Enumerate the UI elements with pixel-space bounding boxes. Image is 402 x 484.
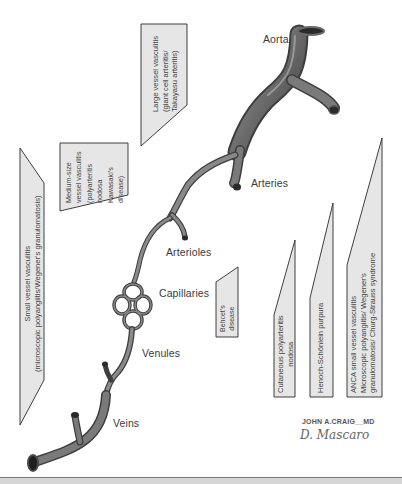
artist-signature-craig: JOHN A.CRAIG__MD [302,418,375,425]
large-vessel-text: Large vessel vasculitis (giant cell arte… [151,36,180,112]
vein-opening [28,455,38,471]
small-vessel-text: Small vessel vasculitis (microscopic pol… [23,196,42,372]
capillary-network [114,284,151,329]
cutaneous-pan-text: Cutaneous polyarteritis nodosa [276,315,295,393]
label-venules: Venules [142,347,180,359]
label-veins: Veins [113,417,139,429]
label-aorta: Aorta [263,33,289,45]
aorta-opening [298,27,324,35]
label-arteries: Arteries [251,177,288,189]
bottom-band [0,478,402,484]
medium-vessel-text: Medium-size vessel vasculitis (polyarter… [64,151,126,203]
artist-signature-mascaro: D. Mascaro [300,428,369,442]
diagram-svg [0,0,402,484]
henoch-text: Henoch-Schönlein purpura [316,303,326,393]
anca-text: ANCA small vessel vasculitis Microscopic… [349,253,378,393]
label-capillaries: Capillaries [159,287,209,299]
vasculitis-diagram: Aorta Arteries Arterioles Capillaries Ve… [0,0,402,484]
label-arterioles: Arterioles [166,246,211,258]
behcet-text: Behcet's disease [218,305,236,332]
